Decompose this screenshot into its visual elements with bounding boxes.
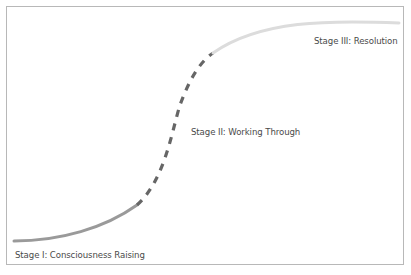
stage-2-label: Stage II: Working Through xyxy=(191,127,300,137)
stage-3-label: Stage III: Resolution xyxy=(314,36,398,46)
stage-1-label: Stage I: Consciousness Raising xyxy=(15,250,145,260)
stage-1-curve xyxy=(14,205,137,241)
